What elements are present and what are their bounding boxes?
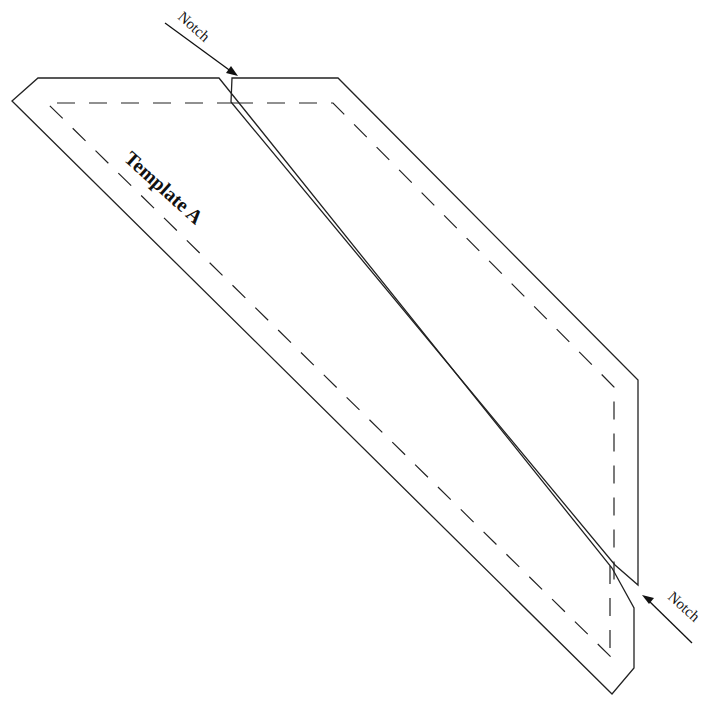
template-diagram: Notch Notch Template A [0,0,711,706]
notch-top-pointer: Notch [165,8,238,76]
notch-bottom-arrowhead-icon [642,595,654,604]
notch-bottom-label: Notch [665,588,703,625]
left-piece-seam-line [47,103,612,658]
notch-bottom-pointer: Notch [642,588,703,643]
notch-top-arrowhead-icon [226,66,238,76]
right-piece-outline [231,78,638,585]
left-piece-outline [12,78,634,694]
template-title: Template A [120,147,208,230]
notch-top-label: Notch [175,8,213,45]
